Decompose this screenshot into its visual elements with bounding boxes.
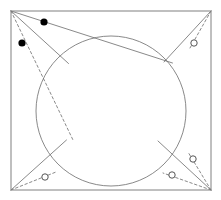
- open-point-marker-point-3: [191, 40, 197, 46]
- open-point-marker-point-6: [169, 172, 175, 178]
- filled-point-marker-point-2: [18, 39, 25, 46]
- figure-container: [0, 0, 221, 200]
- open-point-marker-point-4: [42, 174, 48, 180]
- filled-point-marker-point-1: [40, 18, 47, 25]
- geometry-diagram: [0, 0, 221, 200]
- open-point-marker-point-5: [190, 156, 196, 162]
